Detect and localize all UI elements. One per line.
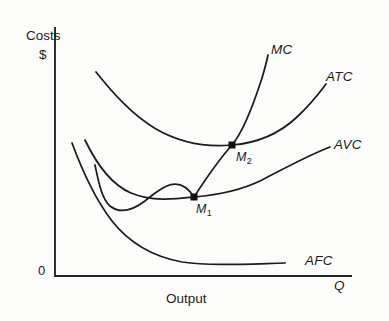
- mc-curve-label: MC: [271, 43, 292, 57]
- m2-subscript: 2: [247, 156, 252, 166]
- x-axis-label: Output: [166, 292, 207, 306]
- m2-point-label: M2: [236, 151, 251, 164]
- m1-letter: M: [196, 202, 206, 216]
- avc-curve: [85, 140, 330, 199]
- afc-curve-label: AFC: [305, 254, 333, 268]
- m1-marker: [191, 194, 198, 201]
- afc-curve: [72, 143, 285, 264]
- m1-subscript: 1: [207, 208, 212, 218]
- origin-label: 0: [38, 264, 45, 277]
- cost-curve-figure: Costs $ 0 Output Q MC ATC AVC AFC M1 M2: [0, 0, 389, 321]
- x-axis-symbol-label: Q: [334, 279, 345, 293]
- m2-letter: M: [236, 150, 246, 164]
- axis-lines: [55, 28, 351, 276]
- y-axis-unit-label: $: [39, 48, 47, 62]
- m2-marker: [229, 142, 236, 149]
- y-axis-label: Costs: [26, 29, 61, 43]
- atc-curve-label: ATC: [326, 70, 353, 84]
- atc-curve: [96, 72, 326, 146]
- m1-point-label: M1: [196, 203, 211, 216]
- avc-curve-label: AVC: [334, 138, 362, 152]
- cost-curve-plot: [0, 0, 389, 321]
